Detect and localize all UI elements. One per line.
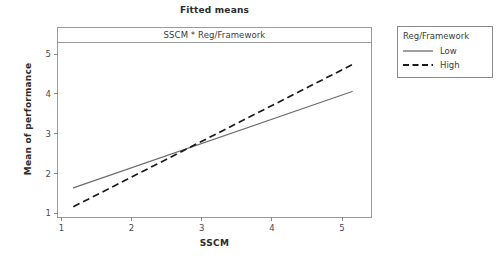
x-tick-label: 2 <box>120 223 144 233</box>
panel-header-strip: SSCM * Reg/Framework <box>58 28 371 43</box>
series-lines <box>58 43 371 217</box>
x-tick-label: 4 <box>260 223 284 233</box>
x-tick-4: 4 <box>260 217 284 233</box>
plot-frame: SSCM * Reg/Framework 12345 12345 <box>57 27 372 218</box>
y-tick-mark <box>54 173 58 174</box>
x-tick-1: 1 <box>49 217 73 233</box>
plot-data-area: 12345 12345 <box>58 43 371 217</box>
series-line-low <box>73 91 352 187</box>
y-tick-label: 2 <box>46 169 54 179</box>
x-tick-mark <box>342 217 343 221</box>
y-tick-mark <box>54 93 58 94</box>
x-axis-title: SSCM <box>57 238 372 248</box>
x-tick-5: 5 <box>330 217 354 233</box>
x-tick-label: 3 <box>190 223 214 233</box>
x-tick-mark <box>271 217 272 221</box>
legend: Reg/Framework Low High <box>397 26 493 78</box>
y-tick-5: 5 <box>46 49 58 59</box>
x-tick-mark <box>201 217 202 221</box>
legend-item-high[interactable]: High <box>403 58 487 72</box>
legend-swatch-high-icon <box>403 60 433 70</box>
legend-label-low: Low <box>440 46 457 56</box>
y-tick-label: 4 <box>46 89 54 99</box>
y-tick-4: 4 <box>46 89 58 99</box>
legend-label-high: High <box>440 60 460 70</box>
y-tick-3: 3 <box>46 129 58 139</box>
y-tick-mark <box>54 133 58 134</box>
panel-header-label: SSCM * Reg/Framework <box>164 30 266 40</box>
y-tick-mark <box>54 213 58 214</box>
legend-title: Reg/Framework <box>403 31 487 41</box>
x-tick-label: 1 <box>49 223 73 233</box>
legend-item-low[interactable]: Low <box>403 44 487 58</box>
legend-swatch-low-icon <box>403 46 433 56</box>
x-tick-2: 2 <box>120 217 144 233</box>
y-axis-title: Mean of performance <box>23 39 33 199</box>
fitted-means-chart: Fitted means SSCM * Reg/Framework 12345 … <box>0 0 501 260</box>
y-tick-mark <box>54 54 58 55</box>
y-tick-2: 2 <box>46 169 58 179</box>
chart-title: Fitted means <box>57 5 372 15</box>
y-tick-label: 5 <box>46 49 54 59</box>
x-tick-mark <box>61 217 62 221</box>
series-line-high <box>73 65 352 207</box>
y-tick-label: 3 <box>46 129 54 139</box>
x-tick-label: 5 <box>330 223 354 233</box>
x-tick-3: 3 <box>190 217 214 233</box>
x-tick-mark <box>131 217 132 221</box>
